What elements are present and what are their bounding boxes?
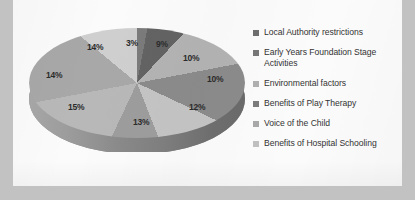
pie-slice-label: 14% xyxy=(46,70,62,80)
legend-item[interactable]: Local Authority restrictions xyxy=(253,27,402,38)
pie-3d-graphic: 3%9%10%10%12%13%15%14%14% xyxy=(23,20,251,152)
legend-item-label: Voice of the Child xyxy=(264,118,330,129)
pie-slice-label: 13% xyxy=(133,117,149,127)
chart-canvas: 3%9%10%10%12%13%15%14%14% Local Authorit… xyxy=(13,0,402,186)
legend-color-swatch-icon xyxy=(253,30,259,36)
legend-item[interactable]: Environmental factors xyxy=(253,78,402,89)
legend-item[interactable]: Early Years Foundation Stage Activities xyxy=(253,47,402,69)
pie-slice-label: 12% xyxy=(189,102,205,112)
legend-color-swatch-icon xyxy=(253,121,259,127)
pie-chart-plot-area: 3%9%10%10%12%13%15%14%14% xyxy=(23,20,253,170)
pie-slice-label: 9% xyxy=(156,39,168,49)
pie-slice-label: 3% xyxy=(126,38,138,48)
legend-color-swatch-icon xyxy=(253,141,259,147)
pie-slice-label: 14% xyxy=(87,42,103,52)
legend-item[interactable]: Benefits of Hospital Schooling xyxy=(253,138,402,149)
legend-color-swatch-icon xyxy=(253,81,259,87)
chart-legend: Local Authority restrictionsEarly Years … xyxy=(253,27,402,158)
legend-color-swatch-icon xyxy=(253,101,259,107)
legend-item[interactable]: Benefits of Play Therapy xyxy=(253,98,402,109)
figure-container: 3%9%10%10%12%13%15%14%14% Local Authorit… xyxy=(0,0,415,200)
legend-color-swatch-icon xyxy=(253,50,259,56)
legend-item-label: Benefits of Play Therapy xyxy=(264,98,356,109)
legend-item[interactable]: Voice of the Child xyxy=(253,118,402,129)
legend-item-label: Local Authority restrictions xyxy=(264,27,363,38)
legend-item-label: Early Years Foundation Stage Activities xyxy=(264,47,402,69)
legend-item-label: Environmental factors xyxy=(264,78,346,89)
legend-item-label: Benefits of Hospital Schooling xyxy=(264,138,377,149)
pie-slice-label: 10% xyxy=(183,53,199,63)
pie-slice-label: 15% xyxy=(68,102,84,112)
pie-slice-label: 10% xyxy=(207,74,223,84)
